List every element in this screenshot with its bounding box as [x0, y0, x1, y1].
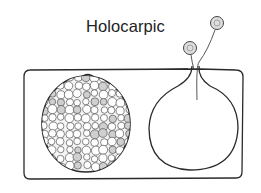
zoospore [48, 163, 56, 171]
zoospore [101, 139, 108, 146]
zoospore [49, 99, 55, 105]
zoospore-flagellum-2 [197, 30, 215, 100]
zoospore [91, 114, 98, 121]
zoospore [118, 115, 125, 122]
zoospore [116, 98, 125, 107]
zoospore [58, 74, 65, 81]
zoospore [99, 145, 108, 154]
zoospore [66, 99, 73, 106]
zoospore [109, 146, 116, 153]
zoospore [108, 75, 116, 83]
zoospore [82, 146, 91, 155]
zoospore [40, 92, 46, 98]
zoospore [124, 114, 132, 122]
zoospore [83, 98, 89, 104]
zoospore [47, 155, 55, 163]
zoospore [66, 161, 75, 170]
zoospore [73, 106, 81, 114]
zoospore [49, 129, 57, 137]
zoospore [99, 90, 108, 99]
sporangium-full [40, 73, 135, 172]
released-zoospore-2 [211, 17, 224, 30]
zoospore [82, 138, 89, 145]
zoospore [91, 156, 97, 162]
zoospore [49, 75, 56, 82]
zoospore [98, 129, 107, 138]
zoospore [74, 162, 81, 169]
zoospore [90, 81, 98, 89]
zoospore [108, 137, 117, 146]
zoospore [57, 114, 64, 121]
zoospore [40, 122, 47, 129]
zoospore [117, 74, 124, 81]
zoospore [84, 154, 90, 160]
zoospore [66, 130, 74, 138]
zoospore [48, 105, 57, 114]
zoospore [73, 153, 81, 161]
zoospore [56, 130, 64, 138]
zoospore [92, 122, 99, 129]
zoospore [91, 90, 98, 97]
zoospore [74, 114, 81, 121]
zoospore [90, 130, 99, 139]
zoospore [81, 73, 90, 82]
zoospore [83, 130, 90, 137]
zoospore [117, 162, 125, 170]
zoospore [65, 114, 74, 123]
zoospore [99, 154, 107, 162]
zoospore [64, 82, 72, 90]
zoospore [73, 130, 81, 138]
zoospore [58, 146, 64, 152]
zoospore [126, 90, 133, 97]
zoospore [108, 107, 115, 114]
zoospore [56, 138, 64, 146]
zoospore [41, 75, 48, 82]
zoospore [100, 98, 107, 105]
released-zoospore-1 [184, 42, 197, 55]
zoospore [123, 162, 132, 171]
zoospore [40, 83, 48, 91]
zoospore [83, 123, 91, 131]
zoospore [48, 138, 55, 145]
zoospore [67, 146, 73, 152]
zoospore [125, 147, 132, 154]
zoospore [83, 105, 91, 113]
zoospore [67, 123, 74, 130]
zoospore [57, 123, 64, 130]
zoospore [84, 161, 91, 168]
zoospore [40, 153, 48, 161]
zoospore [74, 138, 81, 145]
zoospore [99, 82, 108, 91]
zoospore [91, 163, 100, 172]
zoospore [117, 81, 124, 88]
zoospore [81, 114, 90, 123]
zoospore [73, 89, 81, 97]
zoospore [66, 140, 73, 147]
zoospore [65, 105, 74, 114]
zoospore [124, 82, 132, 90]
zoospore [108, 155, 115, 162]
zoospore [41, 162, 48, 169]
sporangium-empty [149, 66, 238, 170]
zoospore [118, 122, 125, 129]
zoospore [57, 106, 66, 115]
zoospore [75, 147, 81, 153]
zoospore [101, 107, 107, 113]
zoospore [108, 123, 116, 131]
holocarpic-illustration [0, 0, 261, 193]
zoospore [49, 114, 57, 122]
zoospore [125, 153, 134, 162]
zoospore [83, 91, 90, 98]
zoospore [75, 82, 83, 90]
zoospore [57, 91, 65, 99]
zoospore [91, 98, 99, 106]
zoospore [74, 99, 81, 106]
zoospore [115, 130, 123, 138]
zoospore [125, 74, 132, 81]
zoospore [109, 115, 116, 122]
zoospore [57, 99, 64, 106]
zoospore [100, 114, 107, 121]
zoospore [117, 138, 125, 146]
zoospore [75, 123, 82, 130]
zoospore [108, 90, 115, 97]
